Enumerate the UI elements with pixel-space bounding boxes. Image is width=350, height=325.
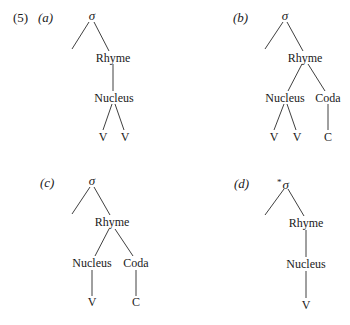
nucleus-node: Nucleus	[94, 92, 133, 104]
rhyme-node: Rhyme	[288, 52, 323, 64]
syllable-symbol: σ	[283, 177, 289, 192]
panel-label: (c)	[40, 176, 54, 189]
panel-label: (d)	[234, 177, 249, 190]
ungrammatical-star: *	[277, 177, 282, 187]
vowel-node: V	[293, 131, 302, 143]
syllable-node: σ	[89, 10, 95, 22]
vowel-node: V	[121, 131, 130, 143]
syllable-node: σ	[89, 175, 95, 187]
ungrammatical-syllable-node: *σ	[277, 176, 289, 191]
example-number: (5)	[13, 11, 28, 24]
consonant-node: C	[324, 131, 332, 143]
coda-node: Coda	[315, 92, 340, 104]
nucleus-node: Nucleus	[265, 92, 304, 104]
vowel-node: V	[88, 296, 97, 308]
vowel-node: V	[302, 299, 311, 311]
nucleus-node: Nucleus	[286, 258, 325, 270]
rhyme-node: Rhyme	[289, 217, 324, 229]
vowel-node: V	[270, 131, 279, 143]
coda-node: Coda	[123, 257, 148, 269]
syllable-node: σ	[282, 10, 288, 22]
panel-label: (b)	[233, 11, 248, 24]
rhyme-node: Rhyme	[96, 52, 131, 64]
panel-label: (a)	[38, 11, 53, 24]
nucleus-node: Nucleus	[72, 257, 111, 269]
vowel-node: V	[99, 131, 108, 143]
consonant-node: C	[132, 296, 140, 308]
tree-branches	[0, 0, 350, 325]
rhyme-node: Rhyme	[95, 216, 130, 228]
